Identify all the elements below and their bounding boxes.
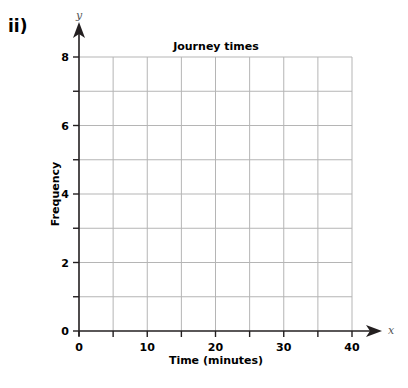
- grid-lines: [79, 57, 352, 331]
- x-tick-label: 20: [208, 341, 224, 354]
- chart-title: Journey times: [172, 40, 259, 53]
- question-label: ii): [8, 16, 27, 36]
- y-tick-label: 8: [61, 51, 69, 64]
- histogram-axes: 01020304002468 ii) Journey times Time (m…: [0, 0, 408, 388]
- y-tick-label: 6: [61, 120, 69, 133]
- x-axis-title: Time (minutes): [169, 354, 263, 367]
- tick-labels: 01020304002468: [61, 51, 360, 354]
- axes: [73, 22, 382, 337]
- y-axis-title: Frequency: [49, 162, 62, 226]
- y-tick-label: 4: [61, 188, 69, 201]
- x-tick-label: 40: [344, 341, 360, 354]
- y-tick-label: 0: [61, 325, 69, 338]
- y-axis-variable: y: [75, 9, 83, 22]
- x-axis-variable: x: [388, 324, 395, 337]
- tick-marks: [73, 57, 352, 337]
- x-tick-label: 30: [276, 341, 292, 354]
- y-tick-label: 2: [61, 257, 69, 270]
- x-tick-label: 0: [75, 341, 83, 354]
- x-tick-label: 10: [140, 341, 156, 354]
